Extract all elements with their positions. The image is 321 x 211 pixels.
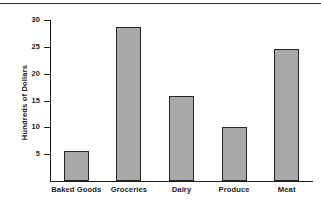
y-axis-title: Hundreds of Dollars	[20, 43, 29, 163]
x-axis-spine	[50, 181, 313, 182]
bar-series	[50, 20, 313, 181]
bar	[222, 127, 247, 181]
x-axis-label: Meat	[260, 185, 313, 194]
bar-chart-figure: 51015202530 Hundreds of Dollars Baked Go…	[0, 0, 321, 211]
x-axis-label: Groceries	[103, 185, 156, 194]
x-axis-label: Baked Goods	[50, 185, 103, 194]
bar	[64, 151, 89, 181]
bar	[274, 49, 299, 181]
plot-area: 51015202530 Hundreds of Dollars Baked Go…	[0, 0, 321, 211]
bar	[169, 96, 194, 181]
x-axis-label: Dairy	[155, 185, 208, 194]
y-tick-label-30: 30	[0, 16, 40, 24]
bar	[116, 27, 141, 181]
x-axis-label: Produce	[208, 185, 261, 194]
x-axis-labels: Baked GoodsGroceriesDairyProduceMeat	[50, 185, 313, 201]
